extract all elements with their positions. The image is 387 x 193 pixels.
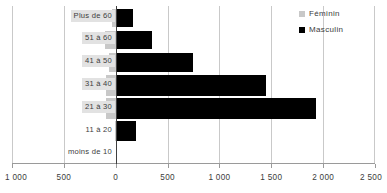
bar-masculin-11-a-20 xyxy=(116,121,137,141)
square-swatch-masculin-icon xyxy=(299,27,305,33)
tick-mark-3 xyxy=(168,164,169,168)
pyramid-chart: Plus de 60 51 à 60 41 à 50 31 à 40 21 à … xyxy=(0,0,387,193)
x-tick-label-minus-500: 500 xyxy=(57,173,72,183)
x-tick-label-2500: 2 500 xyxy=(360,173,382,183)
cat-label-21-a-30: 21 à 30 xyxy=(82,101,115,113)
x-tick-label-1500: 1 500 xyxy=(260,173,282,183)
x-axis-baseline xyxy=(12,163,375,164)
chart-legend: Féminin Masculin xyxy=(299,9,343,41)
bar-row-31-a-40 xyxy=(12,75,375,96)
tick-mark-5 xyxy=(271,164,272,168)
zero-axis-line xyxy=(116,6,117,164)
x-tick-label-minus-1000: 1 000 xyxy=(5,173,27,183)
legend-item-feminin[interactable]: Féminin xyxy=(299,9,343,18)
tick-mark-0 xyxy=(12,164,13,168)
tick-mark-6 xyxy=(323,164,324,168)
cat-label-51-a-60: 51 à 60 xyxy=(82,32,115,44)
bar-row-21-a-30 xyxy=(12,98,375,119)
bar-masculin-31-a-40 xyxy=(116,75,266,96)
cat-label-11-a-20: 11 à 20 xyxy=(82,124,115,136)
legend-label-feminin: Féminin xyxy=(309,9,340,18)
bar-row-11-a-20 xyxy=(12,121,375,141)
x-tick-label-2000: 2 000 xyxy=(312,173,334,183)
cat-label-41-a-50: 41 à 50 xyxy=(82,55,115,67)
bar-row-41-a-50 xyxy=(12,53,375,72)
cat-label-plus-de-60: Plus de 60 xyxy=(71,10,115,22)
bar-masculin-41-a-50 xyxy=(116,53,194,72)
tick-mark-7 xyxy=(375,164,376,168)
square-swatch-feminin-icon xyxy=(299,11,305,17)
x-tick-label-500: 500 xyxy=(160,173,175,183)
bar-masculin-51-a-60 xyxy=(116,31,152,49)
cat-label-31-a-40: 31 à 40 xyxy=(82,78,115,90)
x-tick-label-0: 0 xyxy=(113,173,118,183)
bar-masculin-21-a-30 xyxy=(116,98,316,119)
tick-mark-1 xyxy=(64,164,65,168)
bar-masculin-plus-de-60 xyxy=(116,9,134,27)
tick-mark-4 xyxy=(219,164,220,168)
cat-label-moins-de-10: moins de 10 xyxy=(65,146,115,158)
legend-item-masculin[interactable]: Masculin xyxy=(299,25,343,34)
legend-label-masculin: Masculin xyxy=(309,25,343,34)
tick-mark-2 xyxy=(116,164,117,168)
x-tick-label-1000: 1 000 xyxy=(208,173,230,183)
